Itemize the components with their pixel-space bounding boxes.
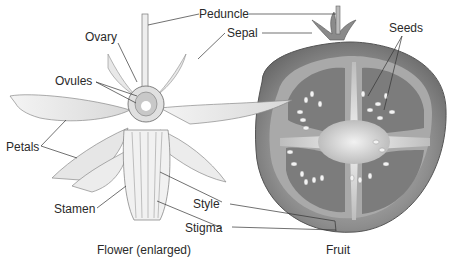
label-ovary: Ovary bbox=[85, 30, 117, 44]
flower-illustration bbox=[10, 14, 292, 220]
illustration bbox=[0, 0, 452, 260]
label-stamen: Stamen bbox=[54, 202, 95, 216]
label-sepal: Sepal bbox=[227, 26, 258, 40]
caption-fruit: Fruit bbox=[326, 243, 350, 257]
label-style: Style bbox=[193, 197, 220, 211]
label-peduncle: Peduncle bbox=[199, 7, 249, 21]
tomato-flower-fruit-diagram: Peduncle Sepal Ovary Ovules Seeds Petals… bbox=[0, 0, 452, 260]
label-petals: Petals bbox=[6, 140, 39, 154]
label-seeds: Seeds bbox=[389, 21, 423, 35]
label-ovules: Ovules bbox=[55, 74, 92, 88]
label-stigma: Stigma bbox=[185, 221, 222, 235]
fruit-illustration bbox=[255, 6, 446, 232]
caption-flower: Flower (enlarged) bbox=[97, 243, 191, 257]
